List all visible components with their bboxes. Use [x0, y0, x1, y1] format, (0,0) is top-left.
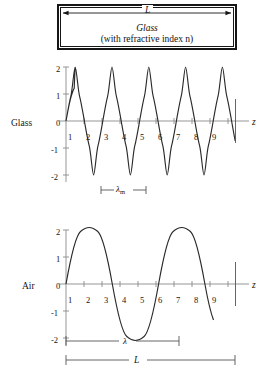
air-length-bracket [66, 355, 235, 365]
figure-vector-layer [0, 0, 270, 375]
air-panel-axes [58, 228, 249, 365]
air-lambda-bracket [66, 336, 179, 346]
figure-root: Glass (with refractive index n) L Glass … [0, 0, 270, 375]
glass-lambda-bracket [101, 186, 146, 194]
glass-panel-axes [58, 67, 249, 194]
